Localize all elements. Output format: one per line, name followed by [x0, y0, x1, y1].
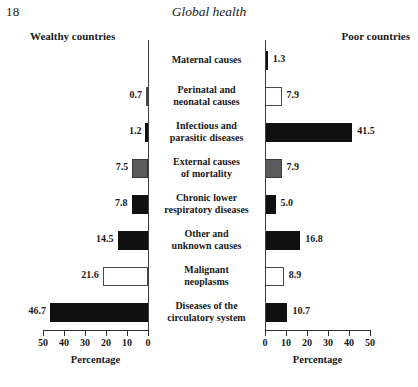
bar-poor [265, 195, 276, 214]
axis-tick-label: 10 [275, 337, 297, 348]
left-bar-cell: 1.2 [0, 114, 148, 150]
category-label: Other andunknown causes [156, 222, 257, 258]
paired-bar-chart: Maternal causes1.30.7Perinatal andneonat… [0, 40, 418, 330]
left-axis-spine [43, 330, 148, 331]
category-label-line: unknown causes [172, 240, 242, 252]
axis-tick-label: 50 [32, 337, 54, 348]
bar-poor [265, 123, 352, 142]
category-label-line: Maternal causes [172, 54, 242, 66]
left-bar-cell: 46.7 [0, 294, 148, 330]
axis-tick-label: 0 [137, 337, 159, 348]
bar-value-wealthy: 21.6 [81, 269, 99, 280]
bar-value-poor: 7.9 [287, 161, 300, 172]
chart-row: 0.7Perinatal andneonatal causes7.9 [0, 78, 418, 114]
axis-tick [43, 330, 44, 336]
category-label-line: respiratory diseases [164, 204, 249, 216]
axis-tick [328, 330, 329, 336]
chart-row: 46.7Diseases of thecirculatory system10.… [0, 294, 418, 330]
right-bar-cell: 1.3 [265, 42, 418, 78]
category-label: Chronic lowerrespiratory diseases [156, 186, 257, 222]
axis-tick [64, 330, 65, 336]
bar-wealthy [132, 195, 148, 214]
right-bar-cell: 7.9 [265, 150, 418, 186]
chart-row: 7.5External causesof mortality7.9 [0, 150, 418, 186]
axis-tick-label: 50 [359, 337, 381, 348]
right-bar-cell: 41.5 [265, 114, 418, 150]
chart-row: 21.6Malignantneoplasms8.9 [0, 258, 418, 294]
bar-poor [265, 267, 284, 286]
bar-value-poor: 16.8 [305, 233, 323, 244]
left-bar-cell [0, 42, 148, 78]
right-axis-spine [265, 330, 370, 331]
category-label-line: circulatory system [167, 312, 245, 324]
chart-row: Maternal causes1.3 [0, 42, 418, 78]
left-bar-cell: 7.8 [0, 186, 148, 222]
bar-value-poor: 7.9 [287, 89, 300, 100]
left-bar-cell: 0.7 [0, 78, 148, 114]
bar-value-wealthy: 46.7 [28, 305, 46, 316]
category-label: Maternal causes [156, 42, 257, 78]
chart-rows: Maternal causes1.30.7Perinatal andneonat… [0, 40, 418, 330]
axis-tick-label: 20 [296, 337, 318, 348]
bar-poor [265, 303, 287, 322]
left-axis-title: Percentage [43, 354, 148, 365]
axis-tick-label: 20 [95, 337, 117, 348]
left-bar-cell: 21.6 [0, 258, 148, 294]
axis-tick [127, 330, 128, 336]
axis-tick [286, 330, 287, 336]
axis-tick [307, 330, 308, 336]
running-head: Global health [0, 4, 418, 20]
category-label: Infectious andparasitic diseases [156, 114, 257, 150]
axis-tick-label: 10 [116, 337, 138, 348]
bar-poor [265, 231, 300, 250]
axis-tick [148, 330, 149, 336]
bar-wealthy [118, 231, 148, 250]
category-label-line: Other and [185, 228, 229, 240]
bar-poor [265, 159, 282, 178]
category-label-line: Infectious and [176, 120, 237, 132]
axis-tick-label: 30 [74, 337, 96, 348]
axis-tick [370, 330, 371, 336]
bar-wealthy [132, 159, 148, 178]
right-bar-cell: 10.7 [265, 294, 418, 330]
bar-value-poor: 41.5 [357, 125, 375, 136]
axis-tick [349, 330, 350, 336]
category-label-line: External causes [173, 156, 240, 168]
category-label: External causesof mortality [156, 150, 257, 186]
bar-value-poor: 1.3 [273, 53, 286, 64]
category-label: Perinatal andneonatal causes [156, 78, 257, 114]
right-bar-cell: 16.8 [265, 222, 418, 258]
right-axis: Percentage 01020304050 [218, 330, 418, 386]
bar-value-poor: 8.9 [289, 269, 302, 280]
category-label-line: Diseases of the [175, 300, 237, 312]
right-axis-title: Percentage [265, 354, 370, 365]
right-bar-cell: 7.9 [265, 78, 418, 114]
category-label: Malignantneoplasms [156, 258, 257, 294]
axis-tick [265, 330, 266, 336]
axis-tick-label: 0 [254, 337, 276, 348]
left-axis-baseline [148, 40, 149, 330]
category-label: Diseases of thecirculatory system [156, 294, 257, 330]
bar-value-wealthy: 0.7 [130, 89, 143, 100]
bar-value-wealthy: 14.5 [96, 233, 114, 244]
bar-poor [265, 87, 282, 106]
chart-row: 1.2Infectious andparasitic diseases41.5 [0, 114, 418, 150]
axis-tick [85, 330, 86, 336]
right-axis-baseline [265, 40, 266, 330]
category-label-line: neoplasms [184, 276, 228, 288]
bar-wealthy [103, 267, 148, 286]
axis-tick-label: 30 [317, 337, 339, 348]
category-label-line: Chronic lower [176, 192, 237, 204]
right-bar-cell: 5.0 [265, 186, 418, 222]
axis-tick-label: 40 [338, 337, 360, 348]
right-bar-cell: 8.9 [265, 258, 418, 294]
bar-value-wealthy: 7.5 [116, 161, 129, 172]
axis-tick-label: 40 [53, 337, 75, 348]
left-bar-cell: 7.5 [0, 150, 148, 186]
chart-row: 14.5Other andunknown causes16.8 [0, 222, 418, 258]
chart-row: 7.8Chronic lowerrespiratory diseases5.0 [0, 186, 418, 222]
category-label-line: Malignant [184, 264, 228, 276]
category-label-line: neonatal causes [173, 96, 239, 108]
bar-wealthy [50, 303, 148, 322]
left-bar-cell: 14.5 [0, 222, 148, 258]
